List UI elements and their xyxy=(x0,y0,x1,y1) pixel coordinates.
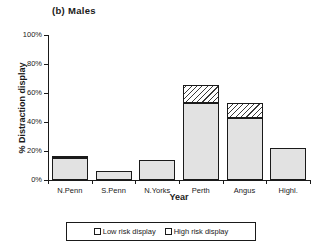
bar-segment-high-risk xyxy=(52,156,88,158)
bar-segment-low-risk xyxy=(52,158,88,180)
bar-spenn[interactable] xyxy=(96,171,132,180)
x-tick-mark xyxy=(92,180,93,184)
bar-perth[interactable] xyxy=(183,85,219,180)
y-tick-label: 100% xyxy=(23,31,42,39)
bar-segment-high-risk xyxy=(183,85,219,103)
chart-title: (b) Males xyxy=(52,5,96,16)
low-risk-swatch xyxy=(94,228,101,235)
bar-segment-low-risk xyxy=(270,148,306,180)
chart-figure: (b) Males % Distraction display 0%20%40%… xyxy=(0,0,323,250)
legend-label: Low risk display xyxy=(103,227,156,236)
legend-entry[interactable]: High risk display xyxy=(165,227,229,236)
bar-segment-low-risk xyxy=(183,103,219,180)
bar-segment-low-risk xyxy=(96,171,132,180)
x-tick-mark xyxy=(310,180,311,184)
y-axis-title: % Distraction display xyxy=(17,33,27,183)
y-tick-mark xyxy=(44,122,48,123)
high-risk-swatch xyxy=(165,228,172,235)
y-tick-mark xyxy=(44,35,48,36)
y-tick-mark xyxy=(44,93,48,94)
bar-npenn[interactable] xyxy=(52,156,88,180)
y-tick-mark xyxy=(44,64,48,65)
y-tick-label: 60% xyxy=(27,89,42,97)
bar-segment-high-risk xyxy=(227,103,263,118)
x-tick-mark xyxy=(266,180,267,184)
chart-legend: Low risk displayHigh risk display xyxy=(66,222,256,241)
legend-entry[interactable]: Low risk display xyxy=(94,227,156,236)
y-tick-label: 40% xyxy=(27,118,42,126)
y-tick-label: 80% xyxy=(27,60,42,68)
bar-nyorks[interactable] xyxy=(139,160,175,180)
bar-angus[interactable] xyxy=(227,103,263,180)
y-tick-mark xyxy=(44,151,48,152)
bar-segment-low-risk xyxy=(139,160,175,180)
y-tick-label: 20% xyxy=(27,147,42,155)
x-tick-mark xyxy=(179,180,180,184)
bar-segment-low-risk xyxy=(227,118,263,180)
x-tick-mark xyxy=(223,180,224,184)
legend-label: High risk display xyxy=(174,227,229,236)
x-axis-title: Year xyxy=(48,192,310,202)
x-tick-mark xyxy=(48,180,49,184)
plot-area: 0%20%40%60%80%100% N.PennS.PennN.YorksPe… xyxy=(48,35,310,180)
y-tick-label: 0% xyxy=(31,176,42,184)
x-tick-mark xyxy=(135,180,136,184)
y-axis-line xyxy=(48,35,49,180)
bar-highl[interactable] xyxy=(270,148,306,180)
